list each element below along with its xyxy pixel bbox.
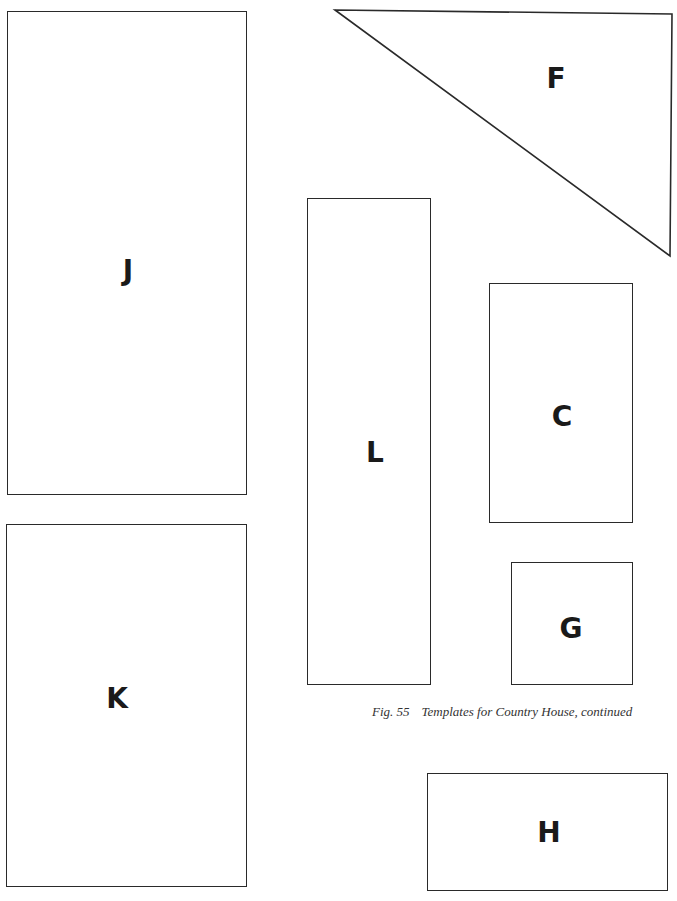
template-c-label: C bbox=[552, 400, 573, 433]
template-l-label: L bbox=[366, 436, 384, 469]
figure-caption-text: Templates for Country House, continued bbox=[422, 704, 633, 719]
figure-caption: Fig. 55Templates for Country House, cont… bbox=[372, 704, 632, 720]
template-f-label: F bbox=[546, 62, 565, 95]
template-g-label: G bbox=[560, 612, 583, 645]
figure-number: Fig. 55 bbox=[372, 704, 410, 719]
template-h-label: H bbox=[537, 816, 560, 849]
